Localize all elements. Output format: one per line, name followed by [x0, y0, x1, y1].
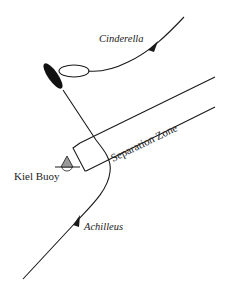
achilleus-direction-arrow-icon — [73, 215, 80, 227]
collision-vessel-icon — [40, 61, 65, 91]
cinderella-label: Cinderella — [99, 33, 144, 44]
cinderella-direction-arrow-icon — [148, 41, 158, 52]
cinderella-track — [59, 17, 184, 77]
achilleus-path — [23, 90, 110, 279]
buoy-label: Kiel Buoy — [14, 170, 60, 182]
cinderella-path — [88, 17, 184, 71]
achilleus-label: Achilleus — [83, 221, 123, 232]
separation-zone — [73, 77, 215, 171]
kiel-buoy-icon — [55, 156, 80, 171]
cinderella-loop — [59, 65, 89, 77]
diagram-canvas: Separation Zone Cinderella Achilleus Kie… — [0, 0, 227, 287]
zone-label: Separation Zone — [109, 121, 179, 164]
